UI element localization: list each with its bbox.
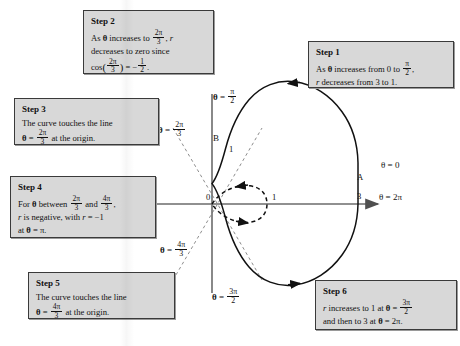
label-theta-2pi-over-3: θ = 2π3 <box>158 121 186 138</box>
direction-arrows <box>236 82 300 284</box>
step-6-body: r increases to 1 at θ = 3π2 and then to … <box>323 299 449 328</box>
value-one-vertical: 1 <box>229 144 233 154</box>
step-4-title: Step 4 <box>18 181 148 194</box>
label-theta-4pi-over-3: θ = 4π3 <box>160 241 188 258</box>
step-box-5: Step 5 The curve touches the line θ = 4π… <box>28 272 175 319</box>
step-5-title: Step 5 <box>36 277 167 290</box>
label-theta-two-pi: θ = 2π <box>379 192 402 202</box>
step-2-body: As θ increases to 2π3, r decreases to ze… <box>91 29 206 76</box>
limacon-svg <box>140 78 380 308</box>
step-box-6: Step 6 r increases to 1 at θ = 3π2 and t… <box>315 280 457 330</box>
arrow-inner-upper <box>236 185 248 187</box>
value-one-horizontal: 1 <box>272 192 276 202</box>
step-2-title: Step 2 <box>91 15 206 28</box>
step-5-body: The curve touches the line θ = 4π3 at th… <box>36 291 167 320</box>
step-1-body: As θ increases from 0 to π2, r decreases… <box>316 60 446 89</box>
label-theta-3pi-over-2: θ = 3π2 <box>212 288 240 305</box>
value-three: 3 <box>357 191 361 201</box>
arrow-inner-lower <box>236 221 248 223</box>
step-1-title: Step 1 <box>316 46 446 59</box>
step-3-title: Step 3 <box>22 103 151 116</box>
step-box-2: Step 2 As θ increases to 2π3, r decrease… <box>83 10 214 74</box>
limacon-outer-loop <box>212 81 358 285</box>
label-theta-pi-over-2: θ = π2 <box>213 88 237 105</box>
step-box-1: Step 1 As θ increases from 0 to π2, r de… <box>308 41 454 88</box>
step-4-body: For θ between 2π3 and 4π3, r is negative… <box>18 195 148 236</box>
step-box-3: Step 3 The curve touches the line θ = 2π… <box>14 98 159 145</box>
step-3-body: The curve touches the line θ = 2π3 at th… <box>22 117 151 146</box>
step-6-title: Step 6 <box>323 285 449 298</box>
arrow-top-outer <box>288 82 300 83</box>
point-label-B: B <box>213 133 219 143</box>
step-box-4: Step 4 For θ between 2π3 and 4π3, r is n… <box>10 176 156 238</box>
figure-canvas: θ = π2 θ = 2π3 θ = 4π3 θ = 3π2 θ = 0 θ =… <box>0 0 460 346</box>
polar-plot <box>140 78 340 300</box>
label-theta-zero: θ = 0 <box>381 160 399 170</box>
point-label-A: A <box>357 172 363 182</box>
value-zero-origin: 0 <box>206 192 210 202</box>
